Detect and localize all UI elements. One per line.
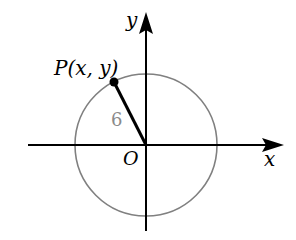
x-axis xyxy=(28,138,284,152)
y-axis-label: y xyxy=(125,8,138,32)
x-axis-label: x xyxy=(264,147,275,171)
coordinate-diagram: P(x, y) 6 O x y xyxy=(0,0,296,240)
radius-label: 6 xyxy=(111,109,122,130)
origin-label: O xyxy=(123,147,139,169)
point-p-label: P(x, y) xyxy=(53,56,118,80)
y-axis xyxy=(139,12,153,231)
